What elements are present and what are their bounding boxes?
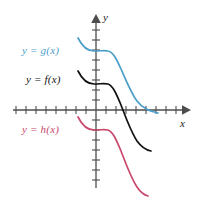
curve-label-h: y = h(x) xyxy=(22,124,59,135)
graph-canvas: y x xyxy=(0,0,197,200)
curve-f xyxy=(78,71,151,151)
x-axis-arrowhead xyxy=(182,105,191,115)
curve-label-g: y = g(x) xyxy=(22,45,59,56)
graph-figure: y x y = g(x) y = f(x) y = h(x) xyxy=(0,0,197,200)
axes-group: y x xyxy=(13,11,191,188)
y-axis-arrowhead xyxy=(91,14,101,23)
curve-h xyxy=(78,117,148,196)
curve-g xyxy=(78,38,158,113)
curve-label-f: y = f(x) xyxy=(26,74,61,85)
x-axis-label: x xyxy=(179,117,185,129)
y-axis-label: y xyxy=(102,11,108,23)
